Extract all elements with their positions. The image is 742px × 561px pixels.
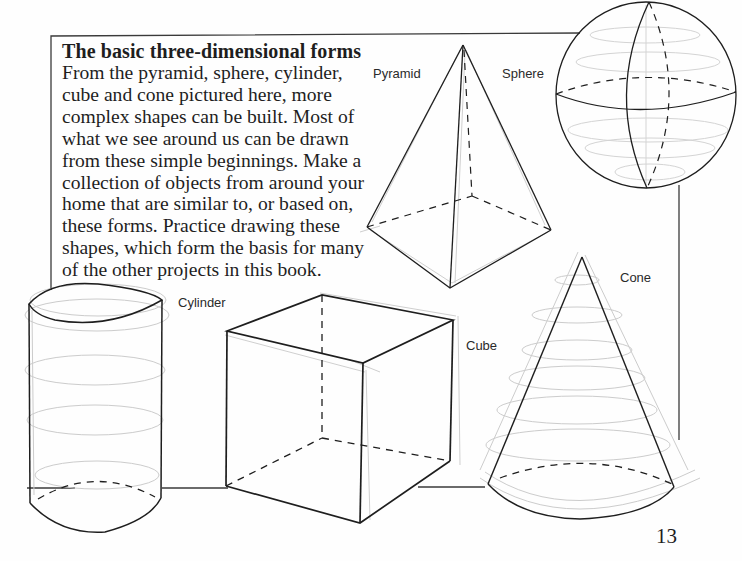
body-paragraph: From the pyramid, sphere, cylinder, cube… — [62, 62, 362, 281]
body-line: of the other projects in this book. — [62, 259, 362, 281]
cone-drawing — [480, 252, 700, 519]
book-page: The basic three-dimensional forms From t… — [0, 0, 742, 561]
body-line: From the pyramid, sphere, cylinder, — [62, 62, 362, 84]
sphere-drawing — [556, 2, 736, 188]
body-line: complex shapes can be built. Most of — [62, 106, 362, 128]
cube-drawing — [225, 293, 460, 523]
intro-text-block: The basic three-dimensional forms From t… — [62, 40, 362, 281]
pyramid-label: Pyramid — [373, 66, 421, 81]
body-line: what we see around us can be drawn — [62, 128, 362, 150]
cube-label: Cube — [466, 338, 497, 353]
sphere-label: Sphere — [502, 66, 544, 81]
body-line: from these simple beginnings. Make a — [62, 150, 362, 172]
body-line: shapes, which form the basis for many — [62, 237, 362, 259]
pyramid-drawing — [360, 45, 551, 288]
cylinder-drawing — [25, 283, 169, 532]
cone-label: Cone — [620, 270, 651, 285]
body-line: these forms. Practice drawing these — [62, 215, 362, 237]
cylinder-label: Cylinder — [178, 295, 226, 310]
section-heading: The basic three-dimensional forms — [62, 40, 362, 62]
body-line: cube and cone pictured here, more — [62, 84, 362, 106]
body-line: home that are similar to, or based on, — [62, 193, 362, 215]
page-number: 13 — [656, 524, 677, 549]
body-line: collection of objects from around your — [62, 172, 362, 194]
